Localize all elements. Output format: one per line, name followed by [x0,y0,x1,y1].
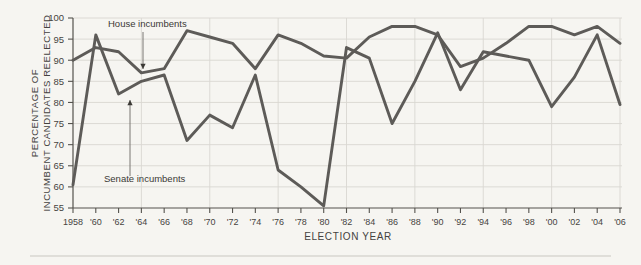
x-tick-label: '74 [249,217,261,227]
x-tick-label: '04 [591,217,603,227]
annotation-label: Senate incumbents [104,173,186,184]
y-tick-label: 60 [53,181,64,192]
chart-figure: 100959085807570656055 1958'60'62'64'66'6… [0,0,641,265]
x-tick-label: '92 [455,217,467,227]
y-tick-label: 80 [53,97,64,108]
y-tick-label: 85 [53,76,64,87]
x-tick-label: '70 [204,217,216,227]
x-tick-label: '72 [227,217,239,227]
x-tick-label: '98 [523,217,535,227]
y-tick-label: 90 [53,55,64,66]
y-tick-label: 75 [53,118,64,129]
x-tick-label: '76 [272,217,284,227]
x-tick-label: '68 [181,217,193,227]
y-tick-label: 55 [53,202,64,213]
x-tick-label: '86 [386,217,398,227]
x-tick-label: '66 [158,217,170,227]
x-tick-label: '80 [318,217,330,227]
x-tick-label: '84 [363,217,375,227]
y-axis-title-line2: INCUMBENT CANDIDATES REELECTED [41,14,52,211]
x-tick-label: 1958 [63,217,83,227]
x-axis-title: ELECTION YEAR [304,231,392,242]
x-tick-label: '06 [614,217,626,227]
x-tick-label: '82 [341,217,353,227]
x-tick-label: '94 [477,217,489,227]
x-tick-label: '90 [432,217,444,227]
x-tick-label: '78 [295,217,307,227]
footer-rule-group [0,251,641,265]
annotation-label: House incumbents [108,18,187,29]
x-tick-label: '62 [113,217,125,227]
x-tick-label: '64 [136,217,148,227]
x-tick-label: '96 [500,217,512,227]
y-tick-label: 70 [53,139,64,150]
x-tick-label: '88 [409,217,421,227]
y-axis-title-line1: PERCENTAGE OF [29,69,40,157]
x-tick-label: '60 [90,217,102,227]
y-tick-label: 65 [53,160,64,171]
x-tick-label: '00 [546,217,558,227]
election-incumbent-reelection-line-chart: 100959085807570656055 1958'60'62'64'66'6… [0,0,641,265]
x-tick-label: '02 [569,217,581,227]
y-tick-label: 95 [53,34,64,45]
